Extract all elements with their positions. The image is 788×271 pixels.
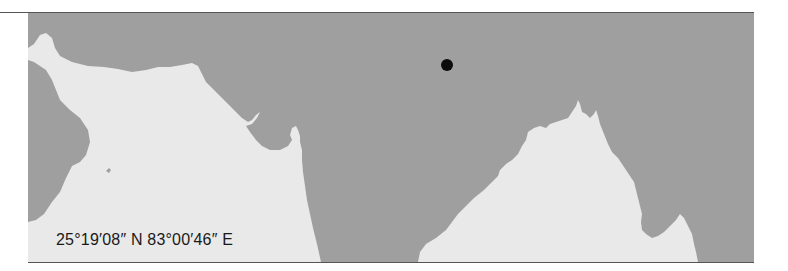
bay-of-bengal (418, 100, 698, 262)
map-graphic (28, 13, 754, 262)
map-bottom-border (28, 262, 754, 263)
coordinates-label: 25°19′08″ N 83°00′46″ E (56, 231, 233, 249)
arabian-sea (28, 33, 321, 262)
locator-map: 25°19′08″ N 83°00′46″ E (28, 13, 754, 262)
location-marker (441, 59, 453, 71)
